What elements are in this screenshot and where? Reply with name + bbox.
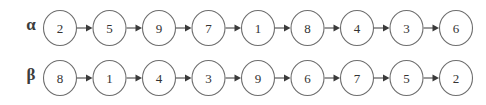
chain-graphic-alpha: 259718436: [0, 3, 486, 53]
arrowhead-icon: [235, 75, 242, 82]
edge-arrow: [127, 25, 143, 32]
arrowhead-icon: [383, 25, 390, 32]
chain-row-alpha: α 259718436: [0, 3, 486, 53]
chain-node: 5: [390, 61, 423, 96]
node-value: 2: [57, 21, 64, 36]
arrowhead-icon: [86, 75, 93, 82]
edge-arrow: [325, 75, 341, 82]
node-value: 9: [156, 21, 163, 36]
edge-arrow: [226, 75, 242, 82]
chain-node: 4: [143, 61, 176, 96]
arrowhead-icon: [433, 75, 440, 82]
node-value: 8: [57, 71, 64, 86]
node-value: 1: [255, 21, 262, 36]
arrowhead-icon: [136, 75, 143, 82]
chain-node: 7: [341, 61, 374, 96]
edge-arrow: [77, 25, 93, 32]
edge-arrow: [127, 75, 143, 82]
node-value: 7: [354, 71, 361, 86]
edge-arrow: [424, 25, 440, 32]
chain-node: 2: [440, 61, 473, 96]
edge-arrow: [374, 25, 390, 32]
node-value: 6: [453, 21, 460, 36]
edge-arrow: [275, 75, 291, 82]
node-value: 8: [304, 21, 311, 36]
arrowhead-icon: [383, 75, 390, 82]
edge-arrow: [176, 25, 192, 32]
chain-node: 4: [341, 11, 374, 46]
node-value: 6: [304, 71, 311, 86]
chain-node: 8: [44, 61, 77, 96]
node-value: 7: [205, 21, 212, 36]
arrowhead-icon: [185, 75, 192, 82]
arrowhead-icon: [284, 75, 291, 82]
edge-arrow: [176, 75, 192, 82]
node-value: 5: [403, 71, 410, 86]
arrowhead-icon: [433, 25, 440, 32]
chain-node: 8: [291, 11, 324, 46]
edge-arrow: [226, 25, 242, 32]
chain-node: 6: [291, 61, 324, 96]
edge-arrow: [77, 75, 93, 82]
node-value: 3: [403, 21, 410, 36]
arrowhead-icon: [235, 25, 242, 32]
node-value: 2: [453, 71, 460, 86]
edge-arrow: [325, 25, 341, 32]
chain-node: 9: [143, 11, 176, 46]
node-value: 9: [255, 71, 262, 86]
chain-node: 5: [93, 11, 126, 46]
arrowhead-icon: [334, 75, 341, 82]
node-value: 3: [205, 71, 212, 86]
chain-node: 6: [440, 11, 473, 46]
edge-arrow: [424, 75, 440, 82]
node-value: 1: [106, 71, 113, 86]
chain-node: 9: [242, 61, 275, 96]
sequence-chain-diagram: α 259718436 β 814396752: [0, 0, 486, 105]
node-value: 4: [354, 21, 361, 36]
chain-node: 1: [242, 11, 275, 46]
arrowhead-icon: [185, 25, 192, 32]
arrowhead-icon: [334, 25, 341, 32]
chain-graphic-beta: 814396752: [0, 53, 486, 103]
node-value: 5: [106, 21, 113, 36]
node-value: 4: [156, 71, 163, 86]
edge-arrow: [374, 75, 390, 82]
chain-node: 3: [390, 11, 423, 46]
arrowhead-icon: [136, 25, 143, 32]
chain-node: 7: [192, 11, 225, 46]
arrowhead-icon: [284, 25, 291, 32]
chain-node: 3: [192, 61, 225, 96]
chain-node: 2: [44, 11, 77, 46]
arrowhead-icon: [86, 25, 93, 32]
edge-arrow: [275, 25, 291, 32]
chain-row-beta: β 814396752: [0, 53, 486, 103]
chain-node: 1: [93, 61, 126, 96]
